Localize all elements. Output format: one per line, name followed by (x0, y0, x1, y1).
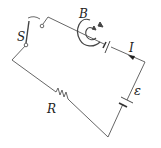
switch-contact (40, 24, 44, 28)
wire-bottom (12, 60, 108, 137)
switch[interactable] (24, 17, 44, 47)
switch-blade (26, 21, 29, 43)
label-I: I (128, 41, 134, 55)
resistor-zigzag (56, 88, 70, 101)
circuit-svg: B S I ε R (0, 0, 161, 148)
circuit-diagram: B S I ε R (0, 0, 161, 148)
battery-top-short-plate (103, 42, 106, 48)
label-R: R (46, 102, 56, 116)
current-arrow-icon (128, 55, 135, 60)
battery-emf-short-plate (119, 103, 127, 107)
label-S: S (17, 30, 25, 44)
label-emf: ε (134, 83, 141, 98)
switch-motion-arc (28, 17, 40, 19)
wire-left (12, 45, 26, 60)
wire-right (108, 62, 145, 137)
label-B: B (78, 7, 88, 21)
